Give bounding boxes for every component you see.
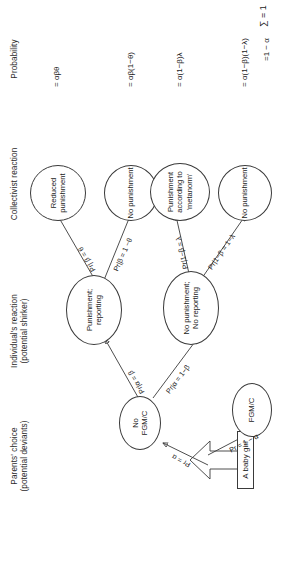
probability-reduced-punishment: = αβθ xyxy=(52,66,62,87)
tree-connectors xyxy=(0,0,301,561)
probability-fgmc: =1 − α xyxy=(262,38,272,61)
diagram-canvas: Parents' choice (potential deviants) Ind… xyxy=(0,0,301,561)
node-no-punishment-2: No punishment xyxy=(218,165,272,221)
node-no-punishment-no-reporting: No punishment; No reporting xyxy=(163,271,219,345)
node-punishment-metanorm: Punishment according to 'metanorm' xyxy=(150,163,210,221)
column-header-probability: Probability xyxy=(10,9,20,109)
probability-no-punishment-2: = α(1−β)(1−λ) xyxy=(240,38,250,87)
node-punishment-reporting: Punishment; reporting xyxy=(66,275,122,345)
probability-punishment-metanorm: = α(1−β)λ xyxy=(175,52,185,87)
column-header-collectivist-reaction: Collectivist reaction xyxy=(10,119,20,249)
node-fgmc: FGM/C xyxy=(232,383,272,437)
node-no-fgmc: No FGM/C xyxy=(119,396,161,450)
column-header-individuals-reaction: Individual's reaction (potential shirker… xyxy=(10,261,30,401)
probability-no-punishment-1: = αβ(1−θ) xyxy=(126,52,136,87)
node-reduced-punishment: Reduced punishment xyxy=(30,165,86,221)
column-header-parents-choice: Parents' choice (potential deviants) xyxy=(10,391,30,521)
probability-sum: ∑ = 1 xyxy=(258,5,268,27)
decision-tree: Parents' choice (potential deviants) Ind… xyxy=(0,0,301,561)
